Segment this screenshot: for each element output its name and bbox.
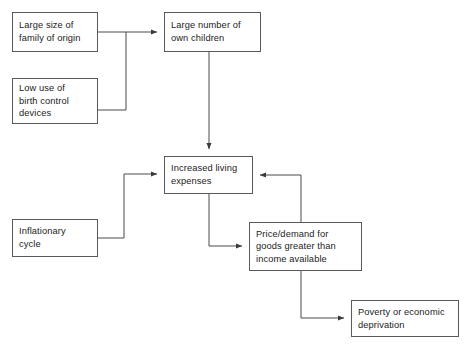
edge-inflation-to-expenses: [98, 174, 157, 238]
edge-expenses-to-price-demand: [209, 194, 242, 246]
node-label: Large number of own children: [171, 19, 241, 44]
node-label: Price/demand for goods greater than inco…: [256, 228, 336, 266]
node-inflationary-cycle[interactable]: Inflationary cycle: [12, 219, 98, 257]
node-poverty-or-deprivation[interactable]: Poverty or economic deprivation: [351, 300, 459, 337]
node-label: Inflationary cycle: [19, 225, 66, 250]
node-label: Poverty or economic deprivation: [358, 306, 445, 331]
node-price-demand-exceeds-income[interactable]: Price/demand for goods greater than inco…: [249, 222, 362, 271]
node-increased-living-expenses[interactable]: Increased living expenses: [164, 156, 253, 194]
edge-birth-control-to-children: [98, 32, 126, 110]
node-label: Increased living expenses: [171, 162, 237, 187]
node-many-own-children[interactable]: Large number of own children: [164, 12, 261, 52]
edge-price-demand-to-expenses: [260, 175, 301, 222]
node-label: Large size of family of origin: [19, 19, 81, 44]
node-label: Low use of birth control devices: [19, 82, 69, 120]
node-large-family-size[interactable]: Large size of family of origin: [12, 12, 98, 52]
node-low-birth-control[interactable]: Low use of birth control devices: [12, 78, 98, 124]
flowchart-canvas: Large size of family of origin Low use o…: [0, 0, 467, 348]
edge-price-demand-to-poverty: [301, 271, 344, 318]
